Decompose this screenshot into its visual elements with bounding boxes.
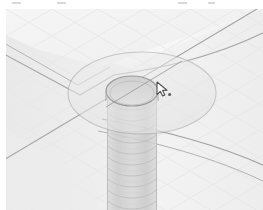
screenshot-root (0, 0, 263, 210)
dash-mark (208, 2, 215, 4)
graphics-viewport[interactable] (6, 9, 263, 210)
model-render (6, 9, 263, 210)
top-dash-marks (0, 0, 263, 9)
dash-mark (178, 2, 187, 4)
dash-mark (57, 2, 66, 4)
dash-mark (12, 2, 21, 4)
